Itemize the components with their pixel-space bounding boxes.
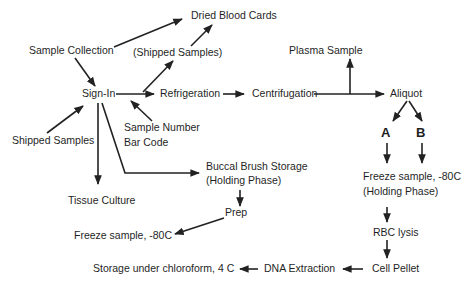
node-aliquot: Aliquot: [390, 87, 422, 100]
node-buccal-holding-phase: (Holding Phase): [206, 174, 281, 187]
node-branch-a: A: [381, 126, 390, 139]
arrow-aliquot-to-a: [393, 101, 407, 121]
node-freeze-right: Freeze sample, -80C: [363, 170, 461, 183]
arrow-shipped-to-signin: [47, 106, 83, 133]
node-tissue-culture: Tissue Culture: [68, 194, 135, 207]
node-bar-code: Bar Code: [124, 136, 168, 149]
node-storage-chloroform: Storage under chloroform, 4 C: [93, 262, 234, 275]
node-plasma-sample: Plasma Sample: [289, 44, 363, 57]
node-sample-collection: Sample Collection: [29, 44, 114, 57]
node-buccal-brush-storage: Buccal Brush Storage: [206, 160, 308, 173]
node-shipped-samples: Shipped Samples: [12, 134, 94, 147]
node-refrigeration: Refrigeration: [160, 87, 220, 100]
arrow-shipped-to-dried-cards: [191, 25, 212, 46]
arrow-prep-to-freeze: [175, 218, 224, 234]
flowchart-canvas: Dried Blood Cards Sample Collection (Shi…: [0, 0, 464, 286]
arrow-aliquot-to-b: [409, 101, 422, 121]
arrow-barcode-to-signin: [131, 101, 152, 121]
arrow-collection-to-signin: [75, 58, 95, 86]
node-centrifugation: Centrifugation: [252, 87, 317, 100]
node-rbc-lysis: RBC lysis: [373, 226, 419, 239]
node-dna-extraction: DNA Extraction: [264, 262, 335, 275]
node-dried-blood-cards: Dried Blood Cards: [191, 9, 277, 22]
node-branch-b: B: [416, 126, 425, 139]
node-sample-number: Sample Number: [124, 121, 200, 134]
node-prep: Prep: [225, 206, 247, 219]
node-freeze-right-holding: (Holding Phase): [363, 185, 438, 198]
node-shipped-samples-paren: (Shipped Samples): [133, 46, 222, 59]
node-cell-pellet: Cell Pellet: [372, 262, 419, 275]
node-sign-in: Sign-In: [82, 87, 115, 100]
node-freeze-left: Freeze sample, -80C: [74, 229, 172, 242]
arrow-collection-to-dried-cards: [114, 19, 182, 47]
